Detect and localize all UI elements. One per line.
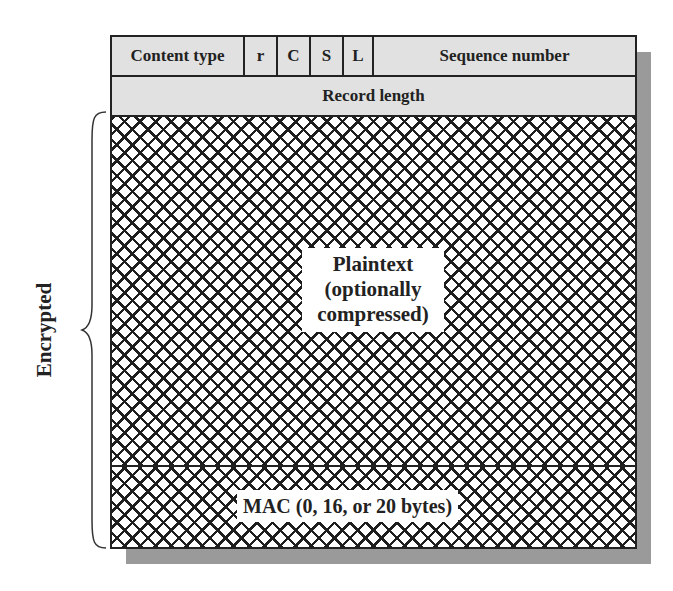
plaintext-line-2: (optionally <box>302 277 444 302</box>
field-r: r <box>245 37 278 75</box>
field-c: C <box>278 37 311 75</box>
field-l: L <box>344 37 374 75</box>
field-s: S <box>311 37 344 75</box>
field-record-length: Record length <box>112 77 635 115</box>
plaintext-line-3: compressed) <box>302 302 444 327</box>
mac-region: MAC (0, 16, or 20 bytes) <box>112 467 635 547</box>
curly-brace-icon <box>80 110 108 550</box>
header-row-1: Content type r C S L Sequence number <box>112 37 635 77</box>
plaintext-label: Plaintext (optionally compressed) <box>302 248 444 332</box>
field-sequence-number: Sequence number <box>374 37 635 75</box>
field-content-type: Content type <box>112 37 245 75</box>
record-format-diagram: Content type r C S L Sequence number Rec… <box>110 35 637 549</box>
mac-label: MAC (0, 16, or 20 bytes) <box>237 490 458 522</box>
plaintext-line-1: Plaintext <box>302 252 444 277</box>
encrypted-label: Encrypted <box>32 283 57 378</box>
plaintext-region: Plaintext (optionally compressed) <box>112 117 635 467</box>
header-row-2: Record length <box>112 77 635 117</box>
